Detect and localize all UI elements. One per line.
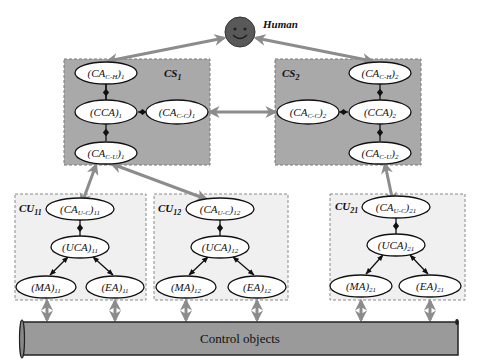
control-objects-bar[interactable]: Control objects <box>20 319 459 358</box>
cu11-ea-node[interactable]: (EA)11 <box>86 276 144 298</box>
cs2-cau-node[interactable]: (CAC-U)2 <box>349 142 411 164</box>
cu12-cauc-node[interactable]: (CAU-C)12 <box>186 198 254 220</box>
cs1-cac-node[interactable]: (CAC-C)1 <box>146 100 208 124</box>
smiley-face-icon <box>225 17 255 47</box>
svg-text:(CCA)1: (CCA)1 <box>90 106 122 120</box>
cs1-cah-node[interactable]: (CAC-H)1 <box>75 62 137 84</box>
cs1-cca-node[interactable]: (CCA)1 <box>75 100 137 124</box>
control-objects-label: Control objects <box>200 331 280 346</box>
diagram-canvas: Human CS1 CS2 CU11 CU12 CU21 (CAC-H)1 (C… <box>0 0 479 361</box>
cu12-uca-node[interactable]: (UCA)12 <box>191 236 249 258</box>
cs1-cau-node[interactable]: (CAC-U)1 <box>75 142 137 164</box>
cu21-ea-node[interactable]: (EA)21 <box>399 275 461 297</box>
cu11-cauc-node[interactable]: (CAU-C)11 <box>46 198 114 220</box>
human-node[interactable]: Human <box>225 17 298 47</box>
cs2-cac-node[interactable]: (CAC-C)2 <box>277 100 339 124</box>
cu12-ma-node[interactable]: (MA)12 <box>156 276 216 298</box>
cs2-cah-node[interactable]: (CAC-H)2 <box>349 62 411 84</box>
svg-text:(CCA)2: (CCA)2 <box>364 106 397 120</box>
cu12-ea-node[interactable]: (EA)12 <box>228 276 286 298</box>
human-label: Human <box>262 18 298 30</box>
cu11-ma-node[interactable]: (MA)11 <box>16 276 76 298</box>
cu21-ma-node[interactable]: (MA)21 <box>330 275 392 297</box>
cs2-cca-node[interactable]: (CCA)2 <box>349 100 411 124</box>
cu21-cauc-node[interactable]: (CAU-C)21 <box>362 196 430 218</box>
cu21-uca-node[interactable]: (UCA)21 <box>367 234 425 256</box>
cu11-uca-node[interactable]: (UCA)11 <box>51 236 109 258</box>
